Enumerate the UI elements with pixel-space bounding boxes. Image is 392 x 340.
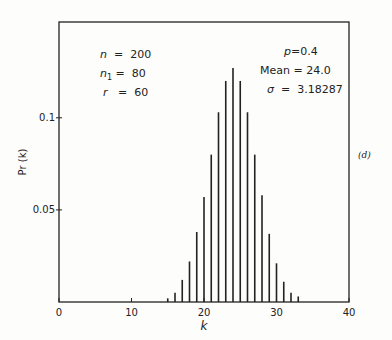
y-axis-ticks: 0.050.1	[33, 112, 62, 215]
y-tick-label: 0.1	[39, 112, 55, 123]
panel-label: (d)	[358, 150, 371, 160]
y-axis-label: Pr (k)	[17, 149, 28, 176]
annotation-n: n = 200	[100, 48, 151, 61]
annotation-r: r = 60	[103, 86, 148, 99]
annotation-sigma: σ = 3.18287	[267, 83, 343, 96]
bars	[168, 68, 299, 302]
x-tick-label: 0	[56, 307, 62, 318]
y-tick-label: 0.05	[33, 204, 55, 215]
x-axis-ticks: 010203040	[56, 298, 356, 318]
annotation-p: p=0.4	[284, 45, 318, 58]
annotation-mean: Mean = 24.0	[260, 64, 331, 77]
x-tick-label: 20	[198, 307, 211, 318]
annotation-n1: n1 = 80	[100, 67, 146, 82]
hypergeometric-chart: 010203040 0.050.1 k Pr (k)	[0, 0, 392, 340]
x-axis-label: k	[201, 319, 209, 333]
x-tick-label: 40	[343, 307, 356, 318]
x-tick-label: 10	[125, 307, 138, 318]
x-tick-label: 30	[270, 307, 283, 318]
